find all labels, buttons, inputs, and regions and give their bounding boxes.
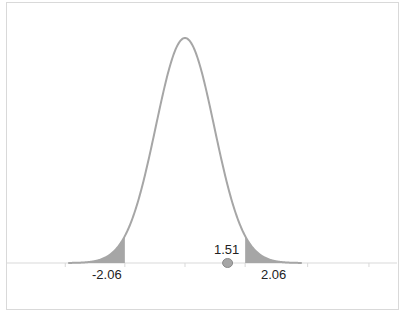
normal-curve-chart [0,0,403,314]
left-critical-label: -2.06 [92,267,122,282]
test-statistic-marker [223,259,233,268]
normal-curve [68,38,302,263]
test-statistic-label: 1.51 [214,242,239,257]
right-critical-label: 2.06 [261,267,286,282]
